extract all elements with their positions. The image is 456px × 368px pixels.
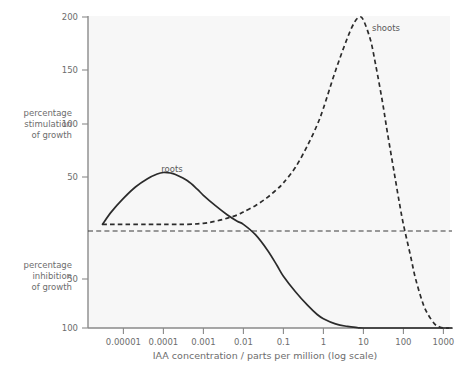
y-axis-ticks bbox=[82, 17, 88, 328]
x-tick-label-2: 0.001 bbox=[191, 337, 215, 347]
y-lower-label-line-3: of growth bbox=[32, 282, 72, 292]
shoots-annotation-label: shoots bbox=[372, 23, 401, 33]
y-lower-label-line-2: inhibition bbox=[32, 271, 72, 281]
x-axis-tick-labels: 0.00001 0.0001 0.001 0.01 0.1 1 10 100 1… bbox=[106, 337, 454, 347]
x-tick-label-3: 0.01 bbox=[234, 337, 253, 347]
plot-background bbox=[88, 16, 450, 328]
y-upper-label-line-2: stimulation bbox=[24, 119, 72, 129]
y-upper-label-line-1: percentage bbox=[24, 108, 72, 118]
chart-page: 200 150 100 50 50 100 0.00001 0.0001 0.0… bbox=[0, 0, 456, 368]
y-tick-label-minus-100: 100 bbox=[62, 323, 78, 333]
x-tick-label-7: 100 bbox=[395, 337, 411, 347]
x-tick-label-0: 0.00001 bbox=[106, 337, 141, 347]
y-tick-label-200: 200 bbox=[62, 12, 78, 22]
y-tick-label-150: 150 bbox=[62, 65, 78, 75]
x-axis-ticks bbox=[123, 328, 443, 334]
x-tick-label-4: 0.1 bbox=[277, 337, 291, 347]
y-upper-label-line-3: of growth bbox=[32, 130, 72, 140]
x-tick-label-1: 0.0001 bbox=[149, 337, 179, 347]
y-axis-upper-label: percentage stimulation of growth bbox=[24, 108, 72, 140]
y-axis-lower-label: percentage inhibition of growth bbox=[24, 260, 72, 292]
x-tick-label-8: 1000 bbox=[433, 337, 455, 347]
x-tick-label-5: 1 bbox=[321, 337, 326, 347]
growth-response-chart: 200 150 100 50 50 100 0.00001 0.0001 0.0… bbox=[0, 0, 456, 368]
x-tick-label-6: 10 bbox=[358, 337, 369, 347]
y-tick-label-50: 50 bbox=[67, 172, 78, 182]
y-lower-label-line-1: percentage bbox=[24, 260, 72, 270]
x-axis-title: IAA concentration / parts per million (l… bbox=[153, 350, 377, 361]
roots-annotation-label: roots bbox=[161, 164, 183, 174]
